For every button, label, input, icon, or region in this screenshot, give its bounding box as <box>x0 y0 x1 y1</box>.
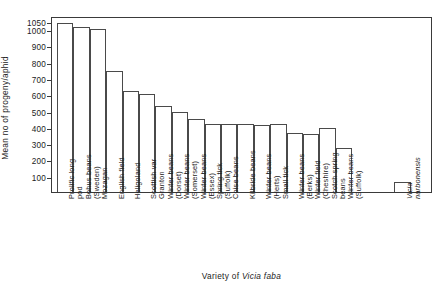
x-axis-title: Variety of Vicia faba <box>51 271 432 281</box>
x-axis-category-label: English field <box>118 157 126 199</box>
y-axis-tick <box>47 178 52 179</box>
x-axis-category-line: Heligoland <box>134 163 142 199</box>
x-axis-category-line: Small tick <box>282 166 290 199</box>
x-axis-category-line: Coise beans <box>232 156 240 199</box>
x-axis-category-label: Scotch springbeans <box>331 152 347 199</box>
x-axis-category-label: Prolific longpod <box>68 159 84 199</box>
y-axis-tick-label: 300 <box>32 141 46 150</box>
x-axis-category-label: Coise beans <box>232 156 240 199</box>
y-axis-tick-label: 800 <box>32 59 46 68</box>
x-axis-category-line: narbonensis <box>414 157 422 199</box>
y-axis-tick <box>47 31 52 32</box>
x-axis-category-label: Spring tick(Suffolk) <box>216 163 232 199</box>
y-axis-tick <box>47 47 52 48</box>
bar-chart-figure: Mean no of progeny/aphid 100200300400500… <box>0 0 445 290</box>
y-axis-tick <box>47 129 52 130</box>
x-axis-title-text: Variety of <box>202 271 242 281</box>
x-axis-category-line: (Suffolk) <box>355 154 363 199</box>
y-axis-tick <box>47 96 52 97</box>
y-axis-title: Mean no of progeny/aphid <box>0 0 14 28</box>
y-axis-tick <box>47 161 52 162</box>
y-axis-tick <box>47 64 52 65</box>
y-axis-tick <box>47 145 52 146</box>
x-axis-category-label: Winter beans(Suffolk) <box>347 154 363 199</box>
x-axis-category-label: Winter field(Cheshire) <box>314 160 330 199</box>
x-axis-category-label: Winter beans(Somerset) <box>183 154 199 199</box>
y-axis-tick-label: 1050 <box>27 18 46 27</box>
y-axis-tick-label: 200 <box>32 157 46 166</box>
x-axis-category-label: Scottish varGranton <box>150 159 166 199</box>
x-axis-category-line: English field <box>118 157 126 199</box>
x-axis-category-label: Winter beans(Essex) <box>200 154 216 199</box>
y-axis-tick-label: 100 <box>32 173 46 182</box>
x-axis-category-label: Vicianarbonensis <box>406 157 422 199</box>
x-axis-category-label: Winter beans(Herts) <box>265 154 281 199</box>
x-axis-category-label: Mozagan <box>101 168 109 199</box>
y-axis-tick <box>47 80 52 81</box>
y-axis-tick-label: 700 <box>32 75 46 84</box>
x-axis-category-label: Winter beans(Berks) <box>298 154 314 199</box>
y-axis-tick-label: 500 <box>32 108 46 117</box>
y-axis-tick-label: 1000 <box>27 27 46 36</box>
y-axis-tick-label: 600 <box>32 92 46 101</box>
x-axis-category-line: Mozagan <box>101 168 109 199</box>
y-axis-tick-label: 900 <box>32 43 46 52</box>
y-axis-tick-label: 400 <box>32 124 46 133</box>
x-axis-category-label: Bohus beans(Sweden) <box>85 154 101 199</box>
y-axis-title-text: Mean no of progeny/aphid <box>0 28 10 188</box>
x-axis-title-species: Vicia faba <box>242 271 281 281</box>
x-axis-category-line: Kilbride beans <box>249 150 257 199</box>
x-axis-category-label: Winter beans(Dorset) <box>167 154 183 199</box>
y-axis-tick <box>47 23 52 24</box>
x-axis-category-label: Kilbride beans <box>249 150 257 199</box>
y-axis-tick <box>47 113 52 114</box>
x-axis-category-label: Small tick <box>282 166 290 199</box>
x-axis-category-label: Heligoland <box>134 163 142 199</box>
